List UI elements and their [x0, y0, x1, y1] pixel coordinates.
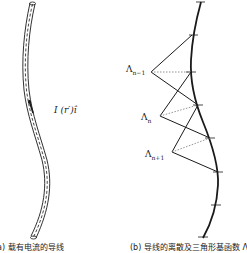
wire-tube: [23, 2, 50, 239]
caption-panel-a: (a) 载有电流的导线: [0, 241, 64, 252]
figure-canvas: [0, 0, 247, 253]
segment-node-ticks: [186, 2, 223, 237]
current-label: I (r′)î: [54, 105, 77, 115]
wire-centerline-dashed: [25, 4, 47, 237]
wire-outer-right: [28, 4, 50, 238]
discretized-wire: [151, 2, 223, 238]
basis-label-n: Λn: [141, 112, 151, 124]
basis-triangle-n-plus-1: [172, 105, 218, 172]
basis-label-sub: n−1: [133, 69, 146, 76]
current-element-dot: [28, 100, 31, 103]
basis-label-sub: n: [148, 117, 152, 124]
basis-label-n-minus-1: Λn−1: [126, 64, 145, 76]
caption-panel-b: (b) 导线的离散及三角形基函数 Λ: [130, 241, 247, 252]
basis-label-n-plus-1: Λn+1: [145, 149, 164, 161]
basis-label-sub: n+1: [152, 154, 165, 161]
wire-curve: [191, 2, 218, 238]
wire-outer-left: [23, 3, 45, 236]
